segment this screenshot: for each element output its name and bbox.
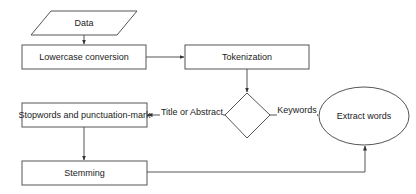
node-lowercase-label: Lowercase conversion: [39, 52, 129, 62]
node-stopwords: Stopwords and punctuation-mark: [18, 103, 151, 127]
node-stemming-label: Stemming: [64, 168, 105, 178]
node-extract-words: Extract words: [319, 87, 409, 145]
node-tokenization-label: Tokenization: [222, 52, 272, 62]
node-lowercase-conversion: Lowercase conversion: [22, 45, 146, 69]
edge-label-title-or-abstract: Title or Abstract: [161, 107, 224, 117]
flowchart-canvas: Title or Abstract Keywords Data Lowercas…: [0, 0, 416, 194]
edge-decision-to-stopwords: Title or Abstract: [148, 107, 225, 118]
node-stopwords-label: Stopwords and punctuation-mark: [18, 110, 151, 120]
node-data-label: Data: [74, 18, 93, 28]
edge-stemming-to-extract: [147, 146, 365, 172]
edge-decision-to-extract: Keywords: [270, 105, 318, 118]
node-tokenization: Tokenization: [185, 45, 309, 69]
node-stemming: Stemming: [22, 161, 147, 185]
diamond-shape: [225, 93, 270, 138]
edge-label-keywords: Keywords: [277, 105, 317, 115]
node-data: Data: [31, 11, 137, 35]
node-decision: [225, 93, 270, 138]
node-extract-label: Extract words: [337, 111, 392, 121]
